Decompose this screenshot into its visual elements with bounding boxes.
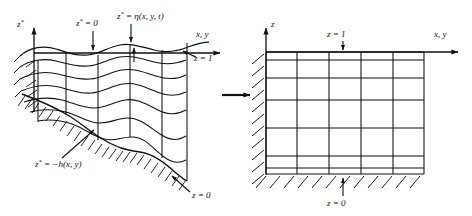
right-axis-label-xy: x, y <box>433 29 447 39</box>
right-bottom-hatching <box>256 176 420 188</box>
label-free-surface: z* = η(x, y, t) <box>116 10 164 21</box>
pointer-bottom-h <box>62 130 94 158</box>
layer-curve-6 <box>38 120 186 162</box>
layer-curve-5 <box>30 110 186 140</box>
label-right-z-zero: z = 0 <box>326 198 346 208</box>
left-axis-label-zstar: z* <box>16 18 25 29</box>
left-axis-label-xy: x, y <box>195 29 209 39</box>
label-left-z-zero: z = 0 <box>191 190 211 200</box>
label-right-z-one: z = 1 <box>326 29 346 39</box>
right-axis-label-z: z <box>270 19 275 29</box>
label-zstar-zero: z* = 0 <box>75 17 98 28</box>
right-panel-computational-domain: z x, y <box>252 19 458 208</box>
perspective-edge-strokes <box>14 56 21 97</box>
label-left-z-one: z = 1 <box>193 53 213 63</box>
free-surface-curve <box>20 42 209 56</box>
computational-grid-horizontal-lines <box>266 52 424 174</box>
layer-curve-1 <box>20 56 186 67</box>
diagram-canvas: z* x, y <box>0 0 472 216</box>
label-bottom-h: z* = −h(x, y) <box>34 158 81 169</box>
figure-root: z* x, y <box>0 0 472 216</box>
left-panel-physical-domain: z* x, y <box>14 10 220 200</box>
layer-curve-2 <box>20 69 186 79</box>
right-wall-hatching <box>252 54 264 184</box>
layer-curve-3 <box>21 84 186 96</box>
